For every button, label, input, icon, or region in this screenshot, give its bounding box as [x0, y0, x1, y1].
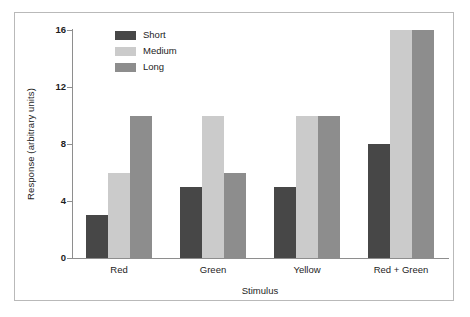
bar	[274, 187, 296, 258]
y-axis-tick-mark	[67, 201, 72, 202]
x-axis-category-label: Yellow	[293, 264, 320, 275]
legend-swatch-icon	[115, 63, 136, 72]
y-axis-tick-label: 4	[61, 196, 66, 206]
y-axis-tick-mark	[67, 144, 72, 145]
y-axis-tick-mark	[67, 258, 72, 259]
x-axis-line	[72, 258, 449, 259]
bar	[296, 116, 318, 259]
bar	[108, 173, 130, 259]
y-axis-tick-label: 0	[61, 253, 66, 263]
bar	[86, 215, 108, 258]
bar	[318, 116, 340, 259]
legend-item-label: Short	[143, 30, 166, 40]
x-axis-category-label: Red + Green	[374, 264, 429, 275]
bar	[202, 116, 224, 259]
bar	[368, 144, 390, 258]
x-axis-category-label: Red	[110, 264, 127, 275]
bar	[180, 187, 202, 258]
bar	[224, 173, 246, 259]
bar	[390, 30, 412, 258]
legend-item: Long	[115, 60, 177, 74]
y-axis-tick-label: 8	[61, 139, 66, 149]
y-axis-tick-label: 16	[55, 25, 66, 35]
bar	[130, 116, 152, 259]
legend-swatch-icon	[115, 47, 136, 56]
y-axis-tick-label: 12	[55, 82, 66, 92]
y-axis-title: Response (arbitrary units)	[25, 88, 36, 200]
bar-chart-plot-area: 0481216 RedGreenYellowRed + Green Respon…	[0, 0, 470, 317]
y-axis-tick-mark	[67, 30, 72, 31]
x-axis-category-label: Green	[200, 264, 226, 275]
legend-swatch-icon	[115, 31, 136, 40]
legend-item: Short	[115, 28, 177, 42]
x-axis-title: Stimulus	[242, 285, 278, 296]
legend-item-label: Medium	[143, 46, 177, 56]
legend-item-label: Long	[143, 62, 164, 72]
y-axis-tick-mark	[67, 87, 72, 88]
figure-root: 0481216 RedGreenYellowRed + Green Respon…	[0, 0, 470, 317]
legend-item: Medium	[115, 44, 177, 58]
chart-legend: ShortMediumLong	[115, 28, 177, 76]
y-axis-line	[72, 29, 73, 259]
bar	[412, 30, 434, 258]
